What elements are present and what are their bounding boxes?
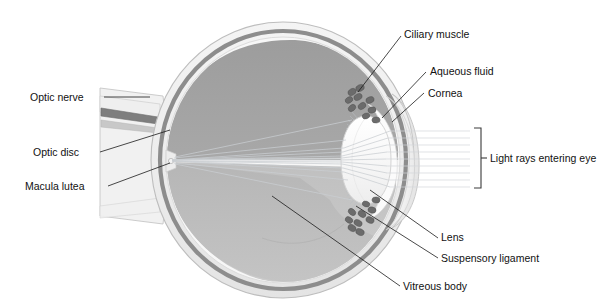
label-light-rays: Light rays entering eye (490, 152, 596, 164)
label-optic-nerve: Optic nerve (30, 91, 84, 103)
light-rays-bracket (474, 128, 487, 188)
label-cornea: Cornea (428, 87, 463, 99)
label-macula-lutea: Macula lutea (25, 180, 85, 192)
label-aqueous-fluid: Aqueous fluid (430, 65, 494, 77)
label-suspensory-ligament: Suspensory ligament (441, 252, 539, 264)
eye-diagram-figure: Optic nerve Optic disc Macula lutea Cili… (0, 0, 608, 305)
label-vitreous-body: Vitreous body (403, 280, 468, 292)
label-optic-disc: Optic disc (33, 146, 79, 158)
label-lens: Lens (441, 231, 464, 243)
label-ciliary-muscle: Ciliary muscle (404, 28, 470, 40)
